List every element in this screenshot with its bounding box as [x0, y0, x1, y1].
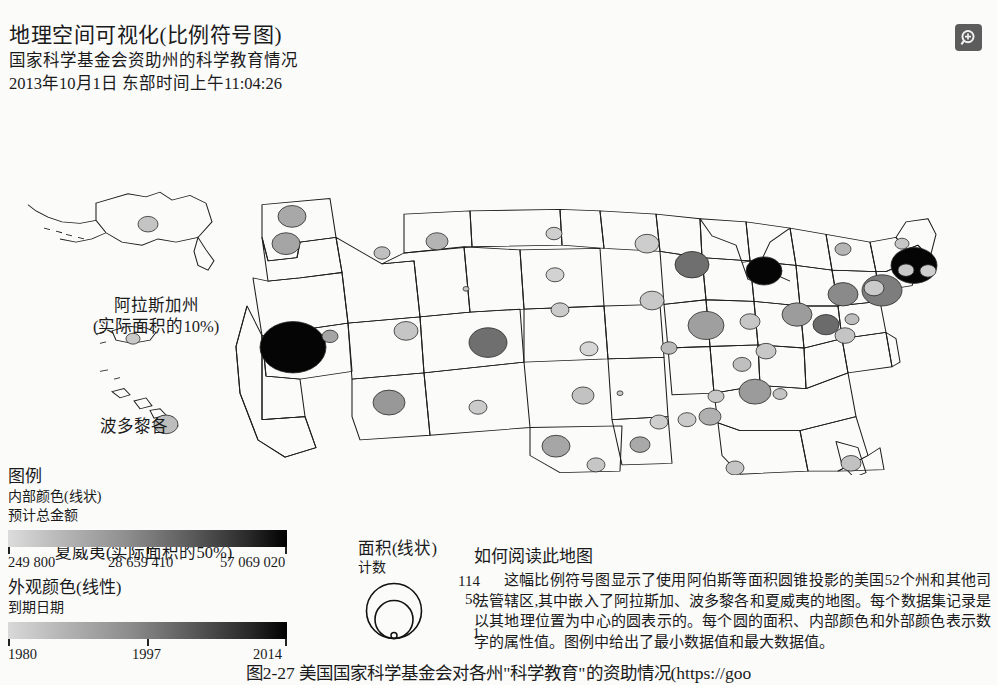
symbol-circle[interactable] — [617, 391, 623, 396]
fill-tick-0: 249 800 — [8, 554, 55, 571]
legend-title: 图例 — [8, 466, 358, 487]
symbol-circle[interactable] — [782, 303, 812, 326]
symbol-circle[interactable] — [640, 291, 664, 310]
legend-stroke-gradient — [8, 622, 287, 639]
legend-stroke-channel: 外观颜色(线性) — [8, 577, 358, 598]
symbol-circle[interactable] — [740, 314, 760, 330]
symbol-circle[interactable] — [546, 227, 562, 239]
alaska-inset — [28, 192, 214, 270]
symbol-circle[interactable] — [463, 286, 469, 291]
map-label-alaska: 阿拉斯加州 (实际面积的10%) — [93, 295, 219, 337]
symbol-circle[interactable] — [864, 280, 884, 296]
symbol-circle[interactable] — [746, 257, 782, 285]
symbol-circle[interactable] — [635, 234, 659, 253]
symbol-circle[interactable] — [675, 251, 709, 277]
symbol-circle[interactable] — [546, 268, 564, 282]
stroke-tick-0: 1980 — [8, 646, 37, 663]
symbol-circle[interactable] — [572, 387, 594, 404]
symbol-circle[interactable] — [828, 283, 858, 306]
symbol-circle[interactable] — [373, 390, 405, 415]
symbol-circle[interactable] — [895, 238, 909, 249]
map-label-puerto-rico: 波多黎各 — [100, 416, 168, 437]
nested-circles-icon — [363, 580, 435, 642]
zoom-in-icon — [959, 28, 979, 48]
symbol-circle[interactable] — [756, 343, 776, 359]
symbol-circle[interactable] — [542, 435, 570, 457]
symbol-circle[interactable] — [773, 389, 787, 400]
symbol-circle[interactable] — [587, 458, 605, 472]
map-canvas[interactable]: 阿拉斯加州 (实际面积的10%) 波多黎各 夏威夷(实际面积的50%) — [0, 105, 997, 475]
symbol-circle[interactable] — [630, 437, 650, 453]
symbol-circle[interactable] — [469, 328, 507, 358]
legend-fill-ticks — [8, 547, 287, 554]
symbol-circle[interactable] — [469, 400, 487, 414]
legend-fill-field: 预计总金额 — [8, 506, 358, 525]
symbol-circle[interactable] — [841, 456, 861, 472]
legend-stroke-field: 到期日期 — [8, 598, 358, 617]
alaska-name: 阿拉斯加州 — [114, 296, 199, 315]
legend-stroke-ticks — [8, 639, 287, 646]
page-subtitle: 国家科学基金会资助州的科学教育情况 — [9, 49, 298, 72]
symbol-circle[interactable] — [688, 311, 724, 339]
page-title: 地理空间可视化(比例符号图) — [9, 22, 298, 49]
symbol-circle[interactable] — [845, 314, 859, 325]
symbol-circle[interactable] — [394, 322, 418, 341]
size-legend-channel: 面积(线状) — [358, 539, 468, 559]
legend: 图例 内部颜色(线状) 预计总金额 249 800 28 659 410 57 … — [8, 466, 358, 666]
symbol-circle[interactable] — [650, 415, 668, 429]
symbol-circle[interactable] — [278, 205, 306, 227]
symbol-circle[interactable] — [322, 330, 338, 342]
figure-caption: 图2-27 美国国家科学基金会对各州"科学教育"的资助情况(https://go… — [0, 662, 997, 685]
alaska-scale: (实际面积的10%) — [93, 317, 219, 336]
how-to-read-panel: 如何阅读此地图 这幅比例符号图显示了使用阿伯斯等面积圆锥投影的美国52个州和其他… — [474, 545, 991, 652]
fill-tick-2: 57 069 020 — [220, 554, 285, 571]
symbol-circle[interactable] — [920, 265, 936, 277]
size-legend-field: 计数 — [358, 559, 468, 577]
symbol-circle[interactable] — [813, 315, 839, 335]
symbol-circle[interactable] — [898, 264, 914, 276]
symbol-circle[interactable] — [260, 322, 326, 373]
size-legend-circles — [363, 580, 435, 642]
symbol-circle[interactable] — [739, 379, 771, 404]
symbol-circle[interactable] — [272, 233, 300, 255]
symbol-circle[interactable] — [699, 408, 721, 425]
symbol-circle[interactable] — [835, 243, 851, 255]
fill-tick-1: 28 659 410 — [108, 554, 173, 571]
title-block: 地理空间可视化(比例符号图) 国家科学基金会资助州的科学教育情况 2013年10… — [9, 22, 298, 95]
stroke-tick-1: 1997 — [132, 646, 161, 663]
symbol-circle[interactable] — [138, 216, 158, 232]
symbol-circle[interactable] — [551, 303, 569, 317]
figure-root: 地理空间可视化(比例符号图) 国家科学基金会资助州的科学教育情况 2013年10… — [0, 0, 997, 685]
symbol-circle[interactable] — [426, 233, 448, 250]
timestamp: 2013年10月1日 东部时间上午11:04:26 — [9, 72, 298, 95]
how-to-read-body: 这幅比例符号图显示了使用阿伯斯等面积圆锥投影的美国52个州和其他司法管辖区,其中… — [474, 570, 991, 652]
state-boundaries — [236, 198, 936, 475]
how-to-read-title: 如何阅读此地图 — [474, 545, 991, 568]
legend-fill-tick-labels: 249 800 28 659 410 57 069 020 — [8, 554, 308, 574]
symbol-circle[interactable] — [374, 247, 390, 259]
symbol-circle[interactable] — [835, 328, 855, 344]
symbol-circle[interactable] — [733, 357, 751, 371]
legend-fill-channel: 内部颜色(线状) — [8, 487, 358, 506]
legend-fill-gradient — [8, 530, 287, 547]
size-legend: 面积(线状) 计数 — [358, 539, 468, 642]
symbol-circle[interactable] — [580, 342, 598, 356]
stroke-tick-2: 2014 — [253, 646, 282, 663]
zoom-in-button[interactable] — [955, 24, 982, 51]
symbol-circle[interactable] — [726, 461, 744, 475]
symbol-circle[interactable] — [661, 342, 677, 354]
symbol-circle[interactable] — [678, 413, 696, 427]
symbol-circle[interactable] — [708, 390, 724, 402]
